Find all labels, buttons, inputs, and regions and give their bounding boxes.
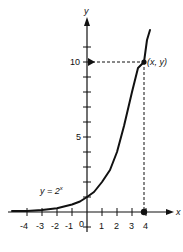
y-marker-triangle-icon — [88, 58, 95, 66]
y-axis-label: y — [83, 6, 89, 16]
x-axis: x — [8, 207, 181, 217]
curve-y-equals-2-to-x — [12, 30, 150, 211]
svg-text:2: 2 — [114, 221, 119, 231]
x-axis-label: x — [175, 207, 181, 217]
y-tick-labels: 5 10 — [70, 57, 81, 142]
exponential-chart: x y -4 -3 -2 -1 0 1 2 3 4 — [0, 0, 183, 252]
curve-label: y = 2x — [39, 185, 64, 196]
svg-text:-4: -4 — [20, 221, 28, 231]
svg-text:-1: -1 — [65, 221, 73, 231]
x-axis-arrow-icon — [166, 209, 174, 215]
y-tick-5: 5 — [76, 132, 81, 142]
svg-text:-3: -3 — [36, 221, 44, 231]
y-axis-arrow-icon — [84, 17, 90, 26]
x-tick-labels: -4 -3 -2 -1 0 1 2 3 4 — [20, 219, 148, 231]
point-label: (x, y) — [147, 57, 167, 67]
svg-text:4: 4 — [143, 221, 148, 231]
svg-text:3: 3 — [129, 221, 134, 231]
point-xy-marker — [141, 59, 146, 64]
x-marker-dot-icon — [141, 209, 147, 215]
guide-lines — [92, 62, 144, 209]
svg-text:1: 1 — [99, 221, 104, 231]
svg-text:-2: -2 — [51, 221, 59, 231]
y-tick-10: 10 — [70, 57, 80, 67]
